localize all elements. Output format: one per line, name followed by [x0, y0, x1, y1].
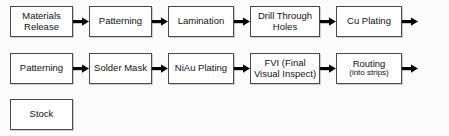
process-node-patterning[interactable]: Patterning — [10, 53, 73, 84]
process-node-label: Patterning — [20, 63, 63, 73]
process-node-sublabel: Release — [24, 22, 59, 33]
process-node-patterning[interactable]: Patterning — [89, 6, 152, 37]
arrow-right-icon — [152, 16, 168, 27]
process-node-label: FVI (Final — [264, 58, 305, 69]
process-node-label: Drill Through — [258, 11, 312, 22]
arrow-right-icon — [402, 16, 418, 27]
arrow-right-icon — [152, 63, 168, 74]
flow-row-1: MaterialsReleasePatterningLaminationDril… — [10, 6, 418, 37]
process-node-label: Stock — [30, 109, 54, 119]
arrow-right-icon — [402, 63, 418, 74]
process-flow-diagram: MaterialsReleasePatterningLaminationDril… — [0, 0, 449, 136]
process-node-label: Lamination — [178, 16, 224, 26]
process-node-materials[interactable]: MaterialsRelease — [10, 6, 73, 37]
process-node-niau-plating[interactable]: NiAu Plating — [168, 53, 234, 84]
process-node-sublabel: (into strips) — [349, 69, 389, 78]
process-node-solder-mask[interactable]: Solder Mask — [89, 53, 152, 84]
process-node-label: NiAu Plating — [175, 63, 227, 73]
process-node-routing[interactable]: Routing(into strips) — [336, 53, 402, 84]
process-node-sublabel: Holes — [273, 22, 297, 33]
arrow-right-icon — [234, 63, 250, 74]
process-node-cu-plating[interactable]: Cu Plating — [336, 6, 402, 37]
process-node-label: Cu Plating — [347, 16, 391, 26]
process-node-label: Solder Mask — [94, 63, 147, 73]
arrow-right-icon — [320, 63, 336, 74]
arrow-right-icon — [73, 63, 89, 74]
arrow-right-icon — [73, 16, 89, 27]
process-node-lamination[interactable]: Lamination — [168, 6, 234, 37]
process-node-fvi-final[interactable]: FVI (FinalVisual Inspect) — [250, 53, 320, 84]
process-node-sublabel: Visual Inspect) — [254, 69, 316, 80]
flow-row-2: PatterningSolder MaskNiAu PlatingFVI (Fi… — [10, 53, 418, 84]
process-node-stock[interactable]: Stock — [10, 99, 73, 130]
process-node-label: Materials — [22, 11, 61, 22]
process-node-label: Patterning — [99, 16, 142, 26]
flow-row-3: Stock — [10, 99, 73, 130]
arrow-right-icon — [234, 16, 250, 27]
arrow-right-icon — [320, 16, 336, 27]
process-node-drill-through[interactable]: Drill ThroughHoles — [250, 6, 320, 37]
